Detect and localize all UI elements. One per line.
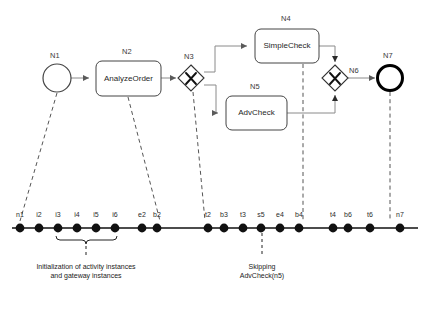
timeline-event-label: b3 xyxy=(214,211,234,218)
task-text-simple-check: SimpleCheck xyxy=(255,41,319,50)
timeline-dot xyxy=(220,224,229,233)
timeline-dot xyxy=(54,224,63,233)
timeline-event-label: e4 xyxy=(270,211,290,218)
timeline-dot xyxy=(366,224,375,233)
timeline-dot xyxy=(329,224,338,233)
timeline-dot xyxy=(92,224,101,233)
timeline-event-label: i5 xyxy=(86,211,106,218)
timeline-dot xyxy=(73,224,82,233)
timeline-dot xyxy=(204,224,213,233)
task-text-adv-check: AdvCheck xyxy=(226,108,287,117)
node-label-n3: N3 xyxy=(184,53,194,61)
timeline-event-label: t3 xyxy=(233,211,253,218)
timeline-dot xyxy=(138,224,147,233)
timeline-event-label: i4 xyxy=(67,211,87,218)
timeline-dot xyxy=(111,224,120,233)
caption-initialization-line2: and gateway instances xyxy=(0,271,172,280)
flow-n3-n5 xyxy=(204,85,218,113)
caption-initialization-line1: Initialization of activity instances xyxy=(0,262,172,271)
init-brace xyxy=(56,236,117,256)
timeline-event-label: n1 xyxy=(10,211,30,218)
timeline-event-label: n7 xyxy=(390,211,410,218)
node-label-n2: N2 xyxy=(122,48,132,56)
timeline-event-label: b6 xyxy=(338,211,358,218)
timeline-dot xyxy=(276,224,285,233)
timeline-dot xyxy=(35,224,44,233)
timeline-dot xyxy=(16,224,25,233)
flow-n4-n6 xyxy=(319,46,335,62)
node-n7-end-event[interactable] xyxy=(378,66,403,91)
leader-n2 xyxy=(128,97,160,221)
timeline-dot xyxy=(396,224,405,233)
timeline-dot xyxy=(344,224,353,233)
caption-skipping: Skipping AdvCheck(n5) xyxy=(212,262,312,280)
node-n3-exclusive-gateway[interactable] xyxy=(178,65,204,91)
leader-n1 xyxy=(20,93,57,221)
timeline-event-label: t6 xyxy=(360,211,380,218)
timeline-dot xyxy=(295,224,304,233)
node-label-n5: N5 xyxy=(250,83,260,91)
timeline-event-label: s5 xyxy=(251,211,271,218)
timeline-event-dots xyxy=(16,224,405,233)
timeline-event-label: b4 xyxy=(289,211,309,218)
node-label-n4: N4 xyxy=(281,15,291,23)
task-text-analyze-order: AnalyzeOrder xyxy=(96,74,161,83)
caption-skipping-line1: Skipping xyxy=(212,262,312,271)
timeline-event-label: i2 xyxy=(29,211,49,218)
timeline-dot xyxy=(153,224,162,233)
figure-canvas: N1 N2 N3 N4 N5 N6 N7 AnalyzeOrder Simple… xyxy=(0,0,424,309)
node-label-n6: N6 xyxy=(349,67,359,75)
timeline-event-label: i6 xyxy=(105,211,125,218)
caption-initialization: Initialization of activity instances and… xyxy=(0,262,172,280)
flow-n3-n4 xyxy=(204,46,247,72)
node-label-n1: N1 xyxy=(50,52,60,60)
timeline-event-label: b2 xyxy=(147,211,167,218)
timeline-dot xyxy=(239,224,248,233)
node-n1-start-event[interactable] xyxy=(43,64,71,92)
timeline-event-label: i3 xyxy=(48,211,68,218)
node-n6-exclusive-gateway[interactable] xyxy=(322,65,348,91)
timeline-dot xyxy=(257,224,266,233)
flow-n5-n6 xyxy=(287,95,335,113)
caption-skipping-line2: AdvCheck(n5) xyxy=(212,271,312,280)
leader-n3 xyxy=(193,92,205,221)
node-label-n7: N7 xyxy=(383,52,393,60)
